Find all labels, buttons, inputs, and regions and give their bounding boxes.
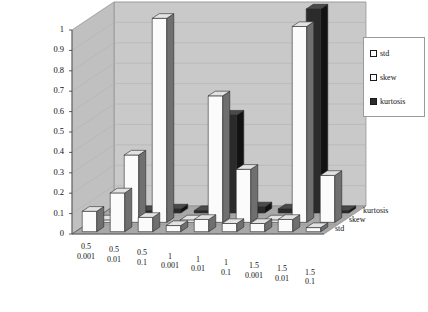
x-category-sub: 0.1 bbox=[293, 277, 327, 287]
bar-std-7 bbox=[278, 215, 300, 232]
depth-axis-label-skew: skew bbox=[349, 215, 365, 224]
bar-skew-4 bbox=[208, 91, 230, 222]
bar-skew-7 bbox=[292, 22, 314, 223]
y-tick-label-8: 0.8 bbox=[38, 66, 64, 75]
legend-item-skew[interactable]: skew bbox=[370, 73, 396, 82]
y-tick-label-7: 0.7 bbox=[38, 86, 64, 95]
bar-skew-8 bbox=[320, 171, 342, 223]
legend-swatch-kurtosis-icon bbox=[370, 98, 377, 105]
y-tick-label-6: 0.6 bbox=[38, 107, 64, 116]
y-tick-label-5: 0.5 bbox=[38, 127, 64, 136]
legend-swatch-std-icon bbox=[370, 50, 377, 57]
legend-label-std: std bbox=[380, 49, 389, 58]
legend-label-skew: skew bbox=[380, 73, 396, 82]
chart-3d-bar: 00.10.20.30.40.50.60.70.80.91 0.50.0010.… bbox=[0, 0, 428, 312]
y-tick-label-10: 1 bbox=[38, 25, 64, 34]
bar-std-4 bbox=[194, 215, 216, 232]
y-tick-label-9: 0.9 bbox=[38, 45, 64, 54]
legend-swatch-skew-icon bbox=[370, 74, 377, 81]
bar-skew-2 bbox=[152, 14, 174, 223]
bar-std-1 bbox=[110, 188, 132, 231]
y-tick-label-4: 0.4 bbox=[38, 147, 64, 156]
x-category-label-8: 1.50.1 bbox=[293, 268, 327, 287]
legend-label-kurtosis: kurtosis bbox=[380, 97, 405, 106]
bar-std-2 bbox=[138, 213, 160, 232]
y-tick-label-2: 0.2 bbox=[38, 188, 64, 197]
legend-item-kurtosis[interactable]: kurtosis bbox=[370, 97, 405, 106]
y-tick-label-0: 0 bbox=[38, 229, 64, 238]
legend: std skew kurtosis bbox=[363, 37, 425, 117]
y-tick-label-1: 0.1 bbox=[38, 209, 64, 218]
depth-axis-label-kurtosis: kurtosis bbox=[363, 206, 388, 215]
y-tick-label-3: 0.3 bbox=[38, 168, 64, 177]
depth-axis-label-std: std bbox=[335, 224, 344, 233]
bar-std-0 bbox=[82, 207, 104, 232]
x-category-value: 1.5 bbox=[293, 268, 327, 278]
legend-item-std[interactable]: std bbox=[370, 49, 389, 58]
bar-skew-5 bbox=[236, 165, 258, 223]
